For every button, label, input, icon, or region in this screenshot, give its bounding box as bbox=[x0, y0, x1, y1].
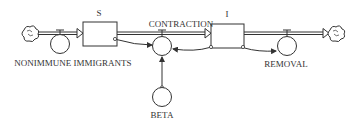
removal-valve[interactable] bbox=[278, 37, 297, 56]
stock-s-label: S bbox=[96, 9, 101, 18]
sink-cloud-icon bbox=[328, 26, 345, 42]
beta-auxiliary[interactable] bbox=[153, 88, 172, 107]
link-beta-to-contraction bbox=[160, 57, 163, 89]
contraction-label: CONTRACTION bbox=[149, 20, 214, 29]
stock-s[interactable] bbox=[83, 22, 117, 46]
source-cloud-icon bbox=[22, 26, 39, 42]
link-s-to-contraction bbox=[113, 37, 152, 45]
nonimmune-immigrants-valve[interactable] bbox=[51, 35, 70, 54]
beta-label: BETA bbox=[151, 111, 174, 120]
stock-i-label: I bbox=[226, 10, 229, 19]
link-i-to-removal bbox=[241, 45, 276, 51]
removal-label: REMOVAL bbox=[264, 60, 307, 69]
stock-i[interactable] bbox=[211, 24, 244, 48]
link-i-to-contraction bbox=[173, 45, 213, 50]
contraction-valve[interactable] bbox=[153, 37, 172, 56]
nonimmune-immigrants-label: NONIMMUNE IMMIGRANTS bbox=[14, 59, 131, 68]
